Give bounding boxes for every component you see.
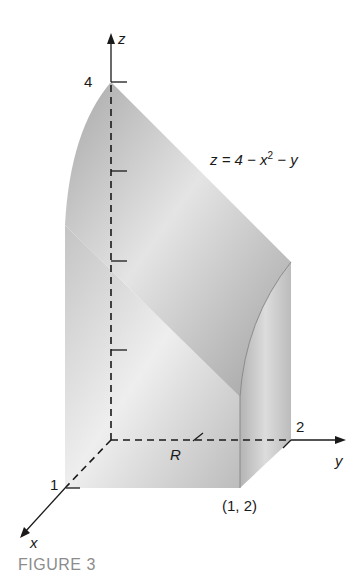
figure-caption: FIGURE 3	[18, 556, 96, 574]
point-label: (1, 2)	[222, 497, 257, 514]
x-axis-label: x	[30, 534, 38, 551]
x-tick-label-1: 1	[50, 476, 58, 493]
solid-figure	[0, 0, 362, 583]
surface-equation: z = 4 − x2 − y	[210, 150, 298, 168]
z-axis-label: z	[118, 30, 126, 47]
z-tick-label-4: 4	[84, 73, 92, 90]
region-label: R	[170, 446, 181, 463]
y-tick-label-2: 2	[296, 418, 304, 435]
y-axis-label: y	[335, 452, 343, 469]
